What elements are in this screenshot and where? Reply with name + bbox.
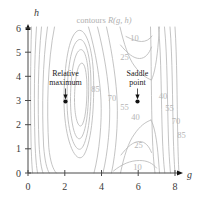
contour-value-label-25-bottom: 25 xyxy=(134,140,143,150)
contour-line-right-5 xyxy=(175,27,179,173)
contour-value-label-40-left: 40 xyxy=(131,112,140,122)
x-tick-label-8: 8 xyxy=(173,181,178,192)
y-axis-label: h xyxy=(34,7,39,18)
x-tick-label-0: 0 xyxy=(26,181,31,192)
y-tick-label-2: 2 xyxy=(16,119,21,130)
saddle-point-label-line2: point xyxy=(129,78,146,87)
saddle-point-annotation: Saddle point xyxy=(127,69,149,104)
y-tick-label-4: 4 xyxy=(16,71,21,82)
y-tick-labels-group: 0 1 2 3 4 5 6 xyxy=(16,23,21,179)
x-tick-label-4: 4 xyxy=(99,181,104,192)
x-axis-label: g xyxy=(187,169,192,180)
contour-line-left-2 xyxy=(34,27,37,173)
contour-value-label-10-bottom: 10 xyxy=(133,162,142,172)
relative-maximum-label-line2: maximum xyxy=(49,78,82,87)
contour-line-left-4 xyxy=(43,27,50,173)
chart-title-arguments: (g, h) xyxy=(113,15,132,25)
contour-value-label-70-left: 70 xyxy=(108,93,117,103)
relative-maximum-point-marker xyxy=(63,99,67,103)
saddle-point-point-marker xyxy=(135,99,139,103)
contour-line-left-5 xyxy=(48,27,57,173)
x-tick-label-6: 6 xyxy=(136,181,141,192)
relative-maximum-annotation: Relative maximum xyxy=(49,69,82,104)
contour-value-label-85-right: 85 xyxy=(177,130,186,140)
contour-curves-group xyxy=(31,27,179,173)
contour-value-label-70-right: 70 xyxy=(172,116,181,126)
contour-value-label-85-left: 85 xyxy=(91,84,100,94)
x-axis-arrow-icon xyxy=(177,170,183,175)
contour-line-right-4 xyxy=(170,27,175,173)
chart-title: contours R(g, h) xyxy=(76,15,131,25)
saddle-point-arrow-icon xyxy=(135,95,139,100)
contour-plot-svg: 0 1 2 3 4 5 6 0 2 4 6 8 h g contours R(g… xyxy=(0,0,200,202)
y-tick-label-6: 6 xyxy=(16,23,21,34)
contour-value-label-40-right: 40 xyxy=(159,91,168,101)
saddle-point-label-line1: Saddle xyxy=(127,69,149,78)
x-tick-label-2: 2 xyxy=(62,181,67,192)
relative-maximum-label-line1: Relative xyxy=(52,69,79,78)
contour-value-label-10-top: 10 xyxy=(130,33,139,43)
y-axis-arrow-icon xyxy=(25,24,30,30)
chart-title-prefix: contours xyxy=(76,15,107,25)
x-tick-labels-group: 0 2 4 6 8 xyxy=(26,181,178,192)
contour-value-label-55-right: 55 xyxy=(165,103,174,113)
contour-saddle-branch-upper xyxy=(152,27,160,80)
y-tick-label-1: 1 xyxy=(16,143,21,154)
y-tick-label-5: 5 xyxy=(16,47,21,58)
contour-value-label-25-top: 25 xyxy=(120,52,129,62)
contour-plot-figure: 0 1 2 3 4 5 6 0 2 4 6 8 h g contours R(g… xyxy=(0,0,200,202)
y-tick-label-0: 0 xyxy=(16,168,21,179)
contour-value-label-55-left: 55 xyxy=(120,102,129,112)
y-tick-label-3: 3 xyxy=(16,95,21,106)
